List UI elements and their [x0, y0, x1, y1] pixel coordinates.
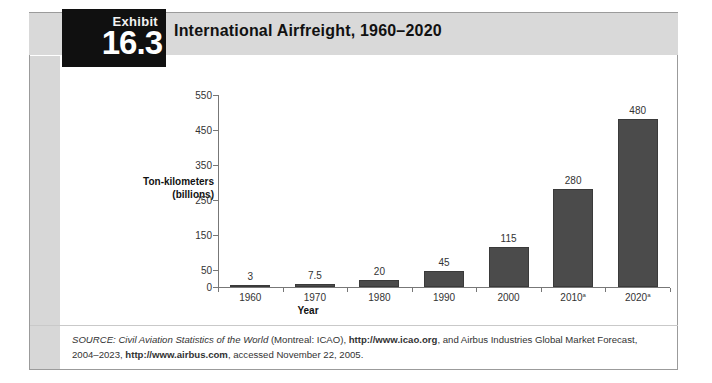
- x-tick-mark: [283, 288, 284, 292]
- y-tick-label: 550: [172, 90, 212, 101]
- bar-1990: [424, 271, 464, 287]
- y-axis-title-line1: Ton-kilometers: [104, 176, 214, 189]
- bar-2020: [618, 119, 658, 287]
- y-tick-label: 50: [172, 264, 212, 275]
- x-tick-label: 1970: [285, 292, 345, 303]
- bar-2000: [489, 247, 529, 287]
- source-work: Civil Aviation Statistics of the World: [118, 334, 268, 345]
- bar-value-label: 480: [629, 105, 646, 116]
- bar-value-label: 280: [565, 175, 582, 186]
- x-axis-title-text: Year: [297, 305, 318, 316]
- y-tick-mark: [213, 95, 218, 96]
- x-axis-line: [218, 287, 670, 288]
- exhibit-page: Exhibit 16.3 International Airfreight, 1…: [0, 0, 712, 383]
- y-tick-mark: [213, 165, 218, 166]
- x-tick-footnote-mark: a: [583, 292, 586, 298]
- source-divider: [30, 325, 678, 326]
- bar-2010: [553, 189, 593, 287]
- x-tick-footnote-mark: a: [647, 292, 650, 298]
- bar-1960: [230, 285, 270, 287]
- x-tick-mark: [605, 288, 606, 292]
- x-tick-label: 1960: [220, 292, 280, 303]
- source-suffix: , accessed November 22, 2005.: [228, 349, 363, 360]
- y-tick-mark: [213, 270, 218, 271]
- bar-value-label: 115: [501, 233, 517, 244]
- bar-value-label: 45: [438, 257, 449, 268]
- source-note: SOURCE: Civil Aviation Statistics of the…: [72, 333, 662, 363]
- x-tick-mark: [476, 288, 477, 292]
- y-tick-mark: [213, 130, 218, 131]
- x-tick-mark: [412, 288, 413, 292]
- y-tick-label: 350: [172, 159, 212, 170]
- bar-value-label: 7.5: [308, 270, 322, 281]
- x-tick-mark: [541, 288, 542, 292]
- bar-value-label: 20: [374, 266, 385, 277]
- x-tick-label: 2010a: [543, 292, 603, 303]
- y-tick-mark: [213, 235, 218, 236]
- x-tick-label: 2000: [479, 292, 539, 303]
- bar-1970: [295, 284, 335, 287]
- y-tick-label: 150: [172, 229, 212, 240]
- x-tick-label: 2020a: [608, 292, 668, 303]
- x-axis-title: Year: [0, 305, 712, 316]
- source-publisher: (Montreal: ICAO),: [268, 334, 349, 345]
- y-tick-label: 450: [172, 124, 212, 135]
- bar-1980: [359, 280, 399, 287]
- x-tick-mark: [347, 288, 348, 292]
- x-tick-mark: [670, 288, 671, 292]
- source-url-airbus[interactable]: http://www.airbus.com: [125, 349, 228, 360]
- bar-value-label: 3: [248, 271, 254, 282]
- y-tick-label: 250: [172, 194, 212, 205]
- y-tick-mark: [213, 200, 218, 201]
- x-tick-label: 1980: [349, 292, 409, 303]
- source-prefix: SOURCE:: [72, 334, 116, 345]
- x-tick-mark: [218, 288, 219, 292]
- x-tick-label: 1990: [414, 292, 474, 303]
- y-axis-line: [218, 95, 219, 288]
- y-tick-label: 0: [172, 282, 212, 293]
- source-url-icao[interactable]: http://www.icao.org: [349, 334, 438, 345]
